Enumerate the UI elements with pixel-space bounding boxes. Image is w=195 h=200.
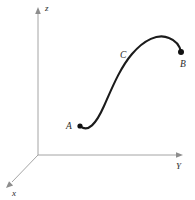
z-axis-arrowhead-icon — [35, 7, 41, 14]
y-axis-arrowhead-icon — [176, 152, 183, 158]
point-B-dot — [178, 49, 184, 55]
x-axis-line — [12, 155, 38, 182]
y-axis: Y — [38, 152, 183, 171]
z-axis: z — [35, 3, 49, 155]
coordinate-axes-figure: z Y x C A B — [0, 0, 195, 200]
x-axis-arrowhead-icon — [6, 181, 13, 188]
curve-C-path — [80, 36, 181, 128]
point-B: B — [178, 49, 186, 69]
point-A-label: A — [65, 121, 72, 131]
x-axis-label: x — [11, 188, 16, 198]
point-A-dot — [77, 123, 82, 128]
x-axis: x — [6, 155, 38, 198]
curve-C-label: C — [120, 50, 127, 60]
y-axis-label: Y — [176, 161, 182, 171]
z-axis-label: z — [44, 3, 49, 13]
point-A: A — [65, 121, 83, 131]
curve-group: C — [80, 36, 181, 128]
figure-container: z Y x C A B — [0, 0, 195, 200]
point-B-label: B — [180, 59, 186, 69]
